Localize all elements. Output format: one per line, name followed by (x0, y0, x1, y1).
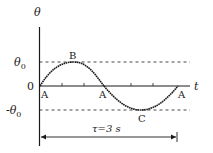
lower-amplitude-label: -θ0 (6, 104, 21, 119)
y-axis-label: θ (34, 6, 41, 19)
oscillation-diagram: θ t 0 θ0 -θ0 A B A C A τ=3 s (0, 0, 213, 153)
origin-label: 0 (27, 80, 34, 93)
point-a-mid: A (98, 89, 107, 100)
upper-amplitude-label: θ0 (14, 56, 26, 71)
point-c-trough: C (138, 113, 146, 124)
point-a-start: A (40, 89, 49, 100)
x-axis-label: t (194, 80, 199, 93)
point-b-peak: B (69, 50, 76, 61)
period-label: τ=3 s (92, 123, 121, 134)
point-a-end: A (177, 89, 186, 100)
